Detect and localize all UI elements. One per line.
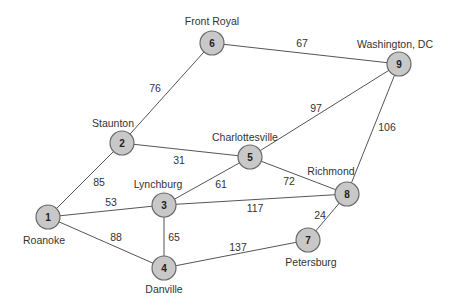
edge-weight-label: 97 — [310, 102, 322, 114]
node-number: 5 — [247, 152, 253, 163]
node-number: 9 — [396, 59, 402, 70]
edge-weight-label: 137 — [229, 241, 247, 253]
edge-weight-label: 61 — [215, 178, 227, 190]
node-6: 6 — [200, 31, 224, 55]
node-1: 1 — [36, 205, 60, 229]
node-number: 8 — [344, 189, 350, 200]
edge-weight-label: 88 — [110, 231, 122, 243]
city-label: Charlottesville — [212, 131, 278, 143]
city-label: Staunton — [92, 117, 134, 129]
node-2: 2 — [110, 131, 134, 155]
edge-5-9 — [250, 64, 399, 157]
city-label: Washington, DC — [357, 38, 433, 50]
node-8: 8 — [335, 182, 359, 206]
node-7: 7 — [296, 228, 320, 252]
city-label: Lynchburg — [134, 178, 183, 190]
edge-weight-label: 72 — [283, 175, 295, 187]
node-9: 9 — [387, 52, 411, 76]
node-number: 6 — [209, 38, 215, 49]
node-number: 1 — [45, 212, 51, 223]
edge-weight-label: 76 — [149, 82, 161, 94]
edge-weight-label: 31 — [173, 154, 185, 166]
nodes-layer: 123456789 — [36, 31, 411, 280]
city-label: Front Royal — [185, 15, 239, 27]
node-3: 3 — [152, 193, 176, 217]
city-label: Petersburg — [285, 256, 337, 268]
edge-weight-label: 85 — [93, 176, 105, 188]
edge-weight-label: 24 — [314, 209, 326, 221]
edge-2-6 — [122, 43, 212, 143]
edge-weight-label: 67 — [296, 37, 308, 49]
edge-weight-label: 117 — [247, 202, 264, 214]
edge-weight-label: 53 — [105, 196, 117, 208]
node-number: 4 — [161, 263, 167, 274]
edges-layer — [48, 43, 399, 268]
node-5: 5 — [238, 145, 262, 169]
city-label: Danville — [145, 283, 183, 295]
road-network-graph: 8553887631611176572976710624137 12345678… — [0, 0, 453, 307]
city-label: Roanoke — [23, 234, 65, 246]
node-4: 4 — [152, 256, 176, 280]
node-number: 3 — [161, 200, 167, 211]
edge-weight-label: 106 — [378, 121, 396, 133]
edge-2-5 — [122, 143, 250, 157]
node-number: 2 — [119, 138, 125, 149]
edge-1-4 — [48, 217, 164, 268]
city-label: Richmond — [307, 165, 354, 177]
edge-weight-label: 65 — [168, 231, 180, 243]
node-number: 7 — [305, 235, 311, 246]
